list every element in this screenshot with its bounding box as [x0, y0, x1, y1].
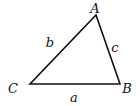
side-label-c: c — [111, 40, 119, 55]
side-label-b: b — [46, 35, 54, 50]
side-label-a: a — [70, 90, 78, 105]
triangle-shape — [30, 15, 120, 84]
vertex-label-c: C — [8, 81, 18, 96]
triangle-diagram: A B C a b c — [0, 0, 140, 106]
vertex-label-b: B — [121, 81, 132, 96]
vertex-label-a: A — [89, 1, 99, 16]
